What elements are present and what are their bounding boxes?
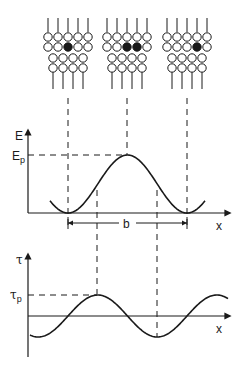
peierls-diagram: E Ep x b τ τp x — [0, 0, 238, 374]
lattice-atom — [203, 43, 211, 51]
lattice-panels — [44, 18, 211, 89]
solute-atom — [64, 43, 72, 51]
lattice-atom — [128, 64, 136, 72]
lattice-atom — [59, 54, 67, 62]
guide-lines — [28, 98, 187, 337]
lattice-atom — [74, 43, 82, 51]
lattice-atom — [44, 33, 52, 41]
lattice-atom — [79, 64, 87, 72]
lattice-atom — [178, 54, 186, 62]
lattice-atom — [183, 43, 191, 51]
lattice-atom — [69, 64, 77, 72]
lattice-atom — [188, 54, 196, 62]
lattice-atom — [188, 64, 196, 72]
lattice-saddle-point — [103, 18, 151, 89]
lattice-atom — [44, 43, 52, 51]
lattice-initial-position — [44, 18, 92, 89]
lattice-atom — [138, 54, 146, 62]
lattice-atom — [168, 54, 176, 62]
energy-curve — [50, 155, 205, 213]
lattice-atom — [74, 33, 82, 41]
lattice-atom — [84, 33, 92, 41]
lattice-atom — [193, 33, 201, 41]
lattice-atom — [108, 64, 116, 72]
lattice-atom — [128, 54, 136, 62]
solute-atom — [133, 43, 141, 51]
lattice-atom — [168, 64, 176, 72]
energy-plot: E Ep x b — [12, 129, 228, 233]
lattice-atom — [138, 64, 146, 72]
lattice-atom — [143, 33, 151, 41]
lattice-atom — [54, 43, 62, 51]
stress-axis-label: τ — [16, 253, 23, 267]
stress-plot: τ τp x — [10, 253, 228, 357]
lattice-atom — [49, 64, 57, 72]
lattice-atom — [103, 33, 111, 41]
b-label: b — [123, 217, 130, 231]
lattice-atom — [59, 64, 67, 72]
lattice-atom — [113, 33, 121, 41]
lattice-atom — [143, 43, 151, 51]
lattice-atom — [178, 64, 186, 72]
lattice-atom — [103, 43, 111, 51]
lattice-atom — [113, 43, 121, 51]
lattice-atom — [163, 43, 171, 51]
taup-label: τp — [10, 288, 22, 304]
lattice-atom — [123, 33, 131, 41]
lattice-atom — [203, 33, 211, 41]
lattice-atom — [173, 43, 181, 51]
lattice-atom — [133, 33, 141, 41]
lattice-atom — [198, 64, 206, 72]
stress-x-label: x — [216, 322, 222, 336]
lattice-atom — [79, 54, 87, 62]
lattice-atom — [84, 43, 92, 51]
lattice-atom — [163, 33, 171, 41]
lattice-atom — [173, 33, 181, 41]
lattice-atom — [198, 54, 206, 62]
b-arrow-left-icon — [68, 221, 73, 226]
solute-atom — [193, 43, 201, 51]
energy-x-label: x — [216, 219, 222, 233]
lattice-atom — [118, 64, 126, 72]
lattice-next-position — [163, 18, 211, 89]
ep-label: Ep — [12, 149, 25, 165]
b-arrow-right-icon — [182, 221, 187, 226]
lattice-atom — [118, 54, 126, 62]
lattice-atom — [54, 33, 62, 41]
lattice-atom — [69, 54, 77, 62]
lattice-atom — [108, 54, 116, 62]
lattice-atom — [183, 33, 191, 41]
solute-atom — [123, 43, 131, 51]
lattice-atom — [49, 54, 57, 62]
energy-axis-label: E — [15, 129, 23, 143]
lattice-atom — [64, 33, 72, 41]
